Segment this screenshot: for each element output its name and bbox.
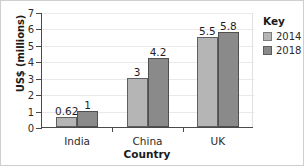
legend-swatch-2014 [263,32,272,41]
bar-china-2018: 4.2 [148,58,169,127]
legend-title: Key [263,15,304,27]
bar-uk-2014: 5.5 [197,37,218,127]
bar-india-2014: 0.62 [56,117,77,127]
bar-value-label: 1 [84,99,91,111]
y-axis-tick-label: 4 [28,57,34,68]
x-axis-category-label: India [64,135,90,147]
legend-label-2018: 2018 [276,45,301,56]
y-axis-tick-label: 7 [28,8,34,19]
y-axis-tick-label: 6 [28,24,34,35]
bar-india-2018: 1 [77,111,98,127]
plot-area: 012345670.621India34.2China5.55.8UK [41,13,253,128]
bar-china-2014: 3 [127,78,148,127]
y-axis-tick [36,128,42,129]
legend-item-2018: 2018 [263,45,304,56]
bar-uk-2018: 5.8 [218,32,239,127]
legend-swatch-2018 [263,46,272,55]
y-axis-tick [36,79,42,80]
bar-chart-figure: US$ (millions) 012345670.621India34.2Chi… [0,0,304,166]
y-axis-tick [36,112,42,113]
bar-value-label: 5.8 [220,20,237,32]
y-axis-tick [36,62,42,63]
y-axis-tick [36,46,42,47]
legend-item-2014: 2014 [263,31,304,42]
legend-label-2014: 2014 [276,31,301,42]
x-axis-category-label: UK [211,135,226,147]
legend: Key 2014 2018 [263,15,304,59]
x-axis-tick [183,127,184,132]
y-axis-tick [36,95,42,96]
bar-value-label: 3 [134,66,141,78]
y-axis-tick-label: 3 [28,73,34,84]
y-axis-title: US$ (millions) [15,0,26,114]
gridline [42,13,254,14]
x-axis-tick [112,127,113,132]
y-axis-tick [36,13,42,14]
bar-value-label: 0.62 [55,105,78,117]
y-axis-tick [36,29,42,30]
x-axis-category-label: China [133,135,163,147]
y-axis-tick-label: 2 [28,90,34,101]
y-axis-tick-label: 5 [28,40,34,51]
bar-value-label: 4.2 [150,46,167,58]
y-axis-tick-label: 1 [28,106,34,117]
x-axis-title: Country [41,148,253,160]
y-axis-tick-label: 0 [28,123,34,134]
bar-value-label: 5.5 [199,25,216,37]
